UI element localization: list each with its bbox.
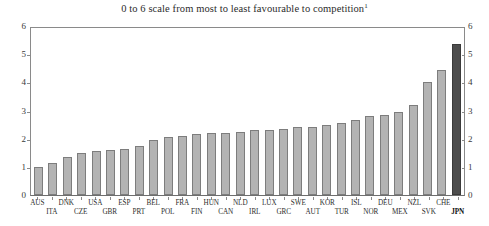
x-tick-mark-grc <box>284 197 285 200</box>
chart-figure: 0 to 6 scale from most to least favourab… <box>0 0 489 226</box>
x-axis-label-esp: ESP <box>112 199 136 207</box>
y-tick-mark-left-2 <box>27 140 30 141</box>
bar-usa <box>92 151 101 195</box>
y-tick-label-left-4: 4 <box>2 78 26 87</box>
x-axis-label-nor: NOR <box>359 208 383 216</box>
x-tick-mark-tur <box>342 197 343 200</box>
bar-ita <box>48 163 57 195</box>
x-axis-label-nld: NLD <box>228 199 252 207</box>
y-tick-label-right-5: 5 <box>468 50 489 59</box>
bar-aus <box>34 167 43 195</box>
y-tick-label-left-2: 2 <box>2 135 26 144</box>
bar-pol <box>164 137 173 195</box>
bar-lux <box>265 130 274 195</box>
x-axis-label-grc: GRC <box>272 208 296 216</box>
x-tick-mark-mex <box>400 197 401 200</box>
x-axis-label-aus: AUS <box>25 199 49 207</box>
y-tick-mark-right-4 <box>462 83 465 84</box>
y-tick-label-right-3: 3 <box>468 107 489 116</box>
bar-isl <box>351 120 360 195</box>
y-tick-label-left-3: 3 <box>2 107 26 116</box>
y-tick-mark-left-1 <box>27 168 30 169</box>
bar-nor <box>365 116 374 195</box>
x-tick-mark-irl <box>255 197 256 200</box>
bar-esp <box>120 149 129 195</box>
x-tick-mark-jpn <box>458 197 459 200</box>
y-tick-mark-right-3 <box>462 112 465 113</box>
bar-fra <box>178 136 187 195</box>
x-axis-label-svk: SVK <box>417 208 441 216</box>
x-axis-label-fin: FIN <box>185 208 209 216</box>
x-axis-label-prt: PRT <box>127 208 151 216</box>
bar-mex <box>394 112 403 195</box>
x-tick-mark-pol <box>168 197 169 200</box>
bar-can <box>221 133 230 195</box>
y-tick-label-left-0: 0 <box>2 191 26 200</box>
bar-nzl <box>409 105 418 195</box>
x-axis-label-pol: POL <box>156 208 180 216</box>
y-tick-mark-right-5 <box>462 55 465 56</box>
bar-gbr <box>106 150 115 195</box>
x-axis-label-nzl: NZL <box>402 199 426 207</box>
bar-che <box>437 70 446 195</box>
x-axis-label-mex: MEX <box>388 208 412 216</box>
chart-title-text: 0 to 6 scale from most to least favourab… <box>121 3 364 14</box>
y-tick-label-left-5: 5 <box>2 50 26 59</box>
chart-title: 0 to 6 scale from most to least favourab… <box>0 3 489 14</box>
x-tick-mark-nor <box>371 197 372 200</box>
y-tick-label-left-1: 1 <box>2 163 26 172</box>
bar-prt <box>135 146 144 195</box>
bar-grc <box>279 129 288 195</box>
bar-jpn <box>452 44 461 195</box>
bar-svk <box>423 82 432 195</box>
x-tick-mark-can <box>226 197 227 200</box>
x-tick-mark-aut <box>313 197 314 200</box>
y-tick-mark-right-2 <box>462 140 465 141</box>
bar-dnk <box>63 157 72 195</box>
y-tick-label-right-6: 6 <box>468 22 489 31</box>
x-axis-label-dnk: DNK <box>54 199 78 207</box>
x-tick-mark-svk <box>429 197 430 200</box>
x-axis-label-swe: SWE <box>286 199 310 207</box>
bar-bel <box>149 140 158 195</box>
bar-fin <box>192 134 201 195</box>
bar-hun <box>207 133 216 195</box>
x-axis-label-tur: TUR <box>330 208 354 216</box>
x-tick-mark-ita <box>52 197 53 200</box>
x-axis-label-gbr: GBR <box>98 208 122 216</box>
x-tick-mark-fin <box>197 197 198 200</box>
x-axis-label-kor: KOR <box>315 199 339 207</box>
plot-area <box>30 27 465 196</box>
y-axis-right: 0123456 <box>468 0 489 226</box>
x-axis-label-can: CAN <box>214 208 238 216</box>
x-axis-label-hun: HUN <box>199 199 223 207</box>
x-axis-label-aut: AUT <box>301 208 325 216</box>
y-tick-label-right-2: 2 <box>468 135 489 144</box>
bar-deu <box>380 115 389 195</box>
x-axis-label-fra: FRA <box>170 199 194 207</box>
x-tick-mark-gbr <box>110 197 111 200</box>
x-axis-label-ita: ITA <box>40 208 64 216</box>
bar-nld <box>236 132 245 195</box>
y-tick-mark-left-4 <box>27 83 30 84</box>
x-axis-label-deu: DEU <box>373 199 397 207</box>
x-axis-label-lux: LUX <box>257 199 281 207</box>
bar-irl <box>250 130 259 195</box>
bar-aut <box>308 127 317 195</box>
y-tick-mark-right-1 <box>462 168 465 169</box>
x-axis-label-bel: BEL <box>141 199 165 207</box>
y-tick-label-right-1: 1 <box>468 163 489 172</box>
bar-cze <box>77 153 86 195</box>
chart-title-footnote-marker: 1 <box>364 2 368 10</box>
x-tick-mark-prt <box>139 197 140 200</box>
x-axis-label-irl: IRL <box>243 208 267 216</box>
bar-swe <box>293 127 302 195</box>
y-tick-label-left-6: 6 <box>2 22 26 31</box>
x-tick-mark-cze <box>81 197 82 200</box>
y-tick-label-right-4: 4 <box>468 78 489 87</box>
bar-series <box>31 28 464 195</box>
x-axis-label-che: CHE <box>431 199 455 207</box>
y-axis-left: 0123456 <box>0 0 26 226</box>
x-axis-label-jpn: JPN <box>446 208 470 216</box>
y-tick-label-right-0: 0 <box>468 191 489 200</box>
